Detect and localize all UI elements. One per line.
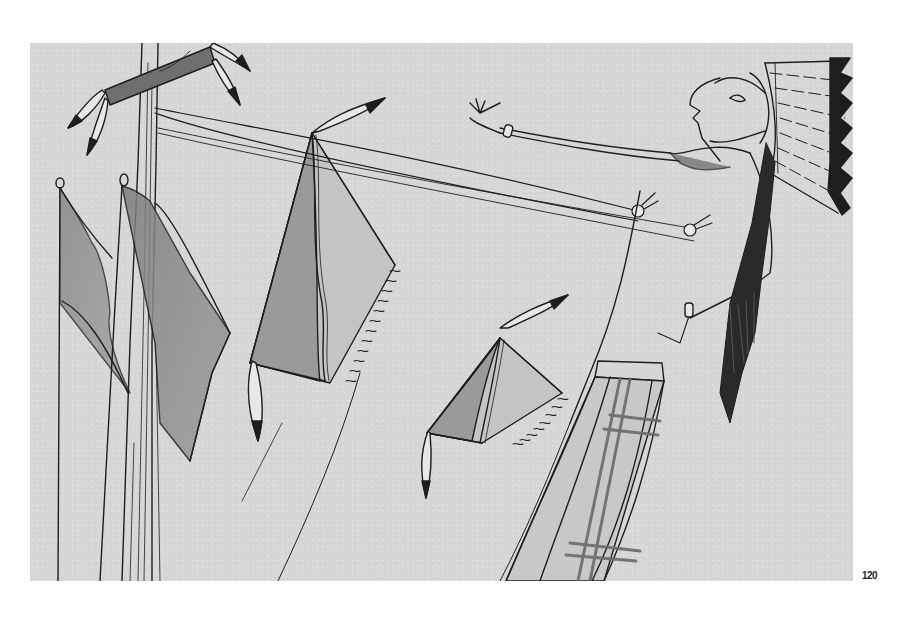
page-number: 120	[862, 570, 877, 581]
shield-left	[248, 98, 400, 441]
feather-pendants	[68, 43, 250, 155]
flags	[56, 174, 230, 581]
guide-line	[242, 423, 282, 501]
drawing	[30, 43, 853, 581]
figure-head	[690, 63, 775, 173]
artwork-plate	[30, 43, 853, 581]
figure-arm	[470, 99, 680, 161]
crossbar	[105, 47, 215, 105]
tether-cords	[155, 108, 712, 241]
shield-right	[422, 295, 568, 498]
headdress	[765, 58, 852, 215]
